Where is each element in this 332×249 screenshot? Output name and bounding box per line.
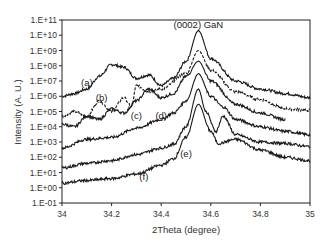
x-tick-label: 34.8 (252, 209, 269, 219)
y-tick-label: 1.E+04 (30, 122, 57, 132)
y-tick-label: 1.E+07 (30, 76, 57, 86)
curve-annotation: (a) (81, 77, 93, 88)
x-axis-title: 2Theta (degree) (152, 224, 220, 235)
x-axis: 3434.234.434.634.835 (57, 203, 315, 219)
x-tick-label: 34.6 (203, 209, 220, 219)
y-tick-label: 1.E+01 (30, 168, 57, 178)
y-tick-label: 1.E+05 (30, 107, 57, 117)
curve-annotation: (f) (139, 171, 148, 182)
x-tick-label: 34.4 (153, 209, 170, 219)
y-tick-label: 1.E+03 (30, 137, 57, 147)
x-tick-label: 34 (57, 209, 67, 219)
y-tick-label: 1.E+10 (30, 30, 57, 40)
y-tick-label: 1.E+08 (30, 61, 57, 71)
plot-area-border (62, 20, 310, 203)
y-tick-label: 1.E+11 (30, 15, 57, 25)
y-axis-title: Intensity (A. U.) (12, 79, 23, 144)
curve-annotation: (b) (96, 92, 108, 103)
curve-annotation: (d) (155, 110, 167, 121)
y-tick-label: 1.E+02 (30, 152, 57, 162)
y-tick-label: 1.E+06 (30, 91, 57, 101)
x-tick-label: 34.2 (103, 209, 120, 219)
x-tick-label: 35 (305, 209, 315, 219)
series-curve-a (62, 31, 310, 99)
curve-annotation: (0002) GaN (174, 19, 224, 30)
y-tick-label: 1.E+00 (30, 183, 57, 193)
y-tick-label: 1.E+09 (30, 46, 57, 56)
series-curve-b (62, 51, 310, 118)
y-tick-label: 1.E-01 (32, 198, 57, 208)
curve-annotation: (c) (131, 110, 142, 121)
xrd-chart: 1.E-011.E+001.E+011.E+021.E+031.E+041.E+… (0, 0, 332, 249)
curve-annotation: (e) (180, 148, 192, 159)
plot-frame (62, 20, 310, 203)
series-curves (62, 31, 310, 185)
y-axis: 1.E-011.E+001.E+011.E+021.E+031.E+041.E+… (30, 15, 62, 208)
